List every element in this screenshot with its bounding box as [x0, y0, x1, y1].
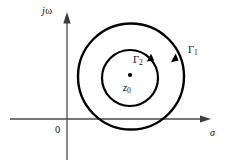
contour-gamma-2-group [102, 50, 158, 106]
imaginary-axis-arrowhead [63, 12, 70, 24]
contour-gamma-1-label: Γ1 [188, 45, 198, 56]
contour-gamma-2-label: Γ2 [133, 55, 143, 66]
imaginary-axis-label: jω [42, 6, 52, 17]
point-z0-marker [128, 73, 132, 77]
real-axis-label: σ [210, 128, 215, 138]
contour-gamma-1-arrowhead [171, 54, 179, 63]
point-z0-label-sub: 0 [127, 86, 131, 95]
figure-canvas [0, 0, 233, 168]
real-axis-arrowhead [200, 115, 211, 122]
origin-label: 0 [55, 125, 60, 136]
complex-plane-figure: jω σ 0 Γ1 Γ2 z0 [0, 0, 233, 168]
axes-group [10, 12, 211, 160]
contour-gamma-1-label-sub: 1 [194, 48, 198, 57]
point-z0-label: z0 [123, 83, 131, 94]
imaginary-axis-label-omega: ω [45, 5, 52, 16]
contour-gamma-2-label-sub: 2 [139, 58, 143, 67]
